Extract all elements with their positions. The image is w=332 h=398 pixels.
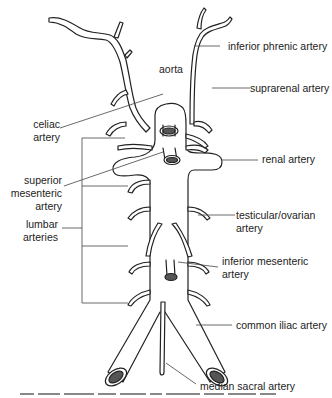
label-common-iliac-artery: common iliac artery [236,319,327,331]
label-celiac-artery-line2: artery [28,131,60,143]
cropped-caption-fragment [20,393,320,398]
lumbar-artery-left-3 [128,290,150,306]
lumbar-artery-right-1 [188,207,210,220]
label-superior-mesenteric-line1: superior [6,174,62,186]
label-median-sacral-artery: median sacral artery [200,380,295,392]
label-aorta: aorta [159,63,183,75]
right-suprarenal-artery [194,121,212,133]
lumbar-artery-left-2 [129,262,150,274]
aorta-branches-diagram: aorta inferior phrenic artery suprarenal… [0,0,332,398]
artery-illustration [0,0,332,398]
label-suprarenal-artery: suprarenal artery [250,82,329,94]
median-sacral-artery [160,302,165,375]
label-renal-artery: renal artery [262,153,315,165]
label-inferior-mesenteric-line2: artery [222,268,249,280]
label-superior-mesenteric-line3: artery [6,200,62,212]
label-lumbar-arteries-line1: lumbar [10,218,58,230]
right-phrenic-artery [190,8,232,124]
label-lumbar-arteries-line2: arteries [10,231,58,243]
label-inferior-phrenic-artery: inferior phrenic artery [228,40,327,52]
label-testicular-ovarian-line1: testicular/ovarian [236,209,315,221]
label-superior-mesenteric-line2: mesenteric [6,187,62,199]
label-celiac-artery-line1: celiac [28,118,60,130]
lumbar-artery-right-3 [188,290,210,306]
lumbar-artery-left-1 [128,207,150,220]
left-suprarenal-artery [106,122,126,136]
label-testicular-ovarian-line2: artery [236,222,263,234]
label-inferior-mesenteric-line1: inferior mesenteric [222,255,308,267]
